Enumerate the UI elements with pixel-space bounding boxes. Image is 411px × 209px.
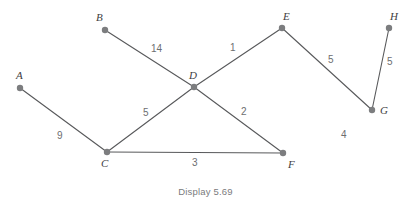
edge-weight-d-e: 1 [230, 43, 236, 53]
figure-caption: Display 5.69 [0, 186, 411, 197]
vertex-label-c: C [101, 158, 108, 169]
edge-weight-b-d: 14 [151, 44, 162, 54]
edge-d-e [194, 28, 282, 87]
edge-weight-g-h: 5 [387, 57, 393, 67]
edges-group [20, 28, 389, 153]
vertex-label-g: G [380, 105, 388, 116]
vertex-dot-b [102, 27, 108, 33]
vertex-dot-e [279, 25, 285, 31]
edge-c-f [107, 152, 283, 153]
edge-b-d [105, 30, 194, 87]
edge-c-d [107, 87, 194, 152]
graph-figure: ABCDEFGH 914531255 4 Display 5.69 [0, 0, 411, 209]
vertex-label-b: B [96, 12, 103, 23]
vertex-dot-g [369, 107, 375, 113]
vertex-dot-c [104, 149, 110, 155]
floating-label-four: 4 [341, 130, 347, 140]
vertices-group [17, 25, 392, 156]
vertex-dot-h [386, 25, 392, 31]
edge-weight-e-g: 5 [328, 55, 334, 65]
edge-d-f [194, 87, 283, 153]
edge-weight-a-c: 9 [57, 131, 63, 141]
vertex-dot-f [280, 150, 286, 156]
vertex-label-d: D [189, 70, 197, 81]
vertex-label-e: E [283, 11, 290, 22]
vertex-label-h: H [390, 11, 398, 22]
vertex-dot-d [191, 84, 197, 90]
vertex-dot-a [17, 85, 23, 91]
edge-weight-c-f: 3 [192, 158, 198, 168]
edge-weight-d-f: 2 [241, 107, 247, 117]
vertex-label-f: F [288, 159, 295, 170]
edge-weight-c-d: 5 [143, 108, 149, 118]
vertex-label-a: A [16, 70, 23, 81]
graph-canvas [0, 0, 411, 209]
edge-a-c [20, 88, 107, 152]
edge-e-g [282, 28, 372, 110]
edge-g-h [372, 28, 389, 110]
